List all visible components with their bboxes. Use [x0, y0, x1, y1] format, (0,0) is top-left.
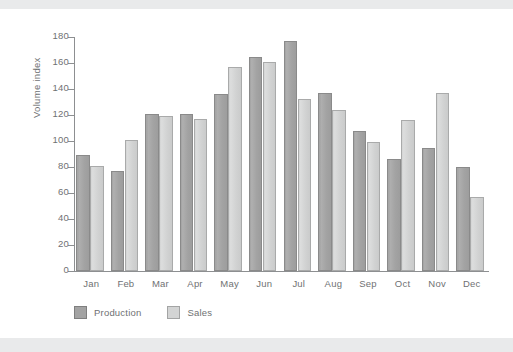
chart-legend: ProductionSales	[74, 306, 238, 319]
x-axis-line	[74, 271, 489, 272]
bar-group	[316, 37, 351, 271]
bar-sales-may	[228, 67, 242, 271]
bar-production-aug	[318, 93, 332, 271]
plot-area	[74, 37, 489, 271]
bar-group	[282, 37, 317, 271]
bar-group	[74, 37, 109, 271]
bar-production-jul	[284, 41, 298, 271]
production-swatch	[74, 306, 87, 319]
x-tick-label: Dec	[454, 278, 489, 289]
x-tick-label: Feb	[109, 278, 144, 289]
x-tick-label: Jun	[247, 278, 282, 289]
x-tick-label: Mar	[143, 278, 178, 289]
bar-sales-dec	[470, 197, 484, 271]
bar-production-dec	[456, 167, 470, 271]
bar-group	[143, 37, 178, 271]
x-tick-label: Nov	[420, 278, 455, 289]
bar-sales-aug	[332, 110, 346, 271]
y-axis-title: Volume index	[31, 57, 42, 118]
x-tick-label: Sep	[351, 278, 386, 289]
legend-item-production[interactable]: Production	[74, 306, 141, 319]
y-tick-label: 120	[53, 108, 69, 119]
bar-group	[212, 37, 247, 271]
bar-production-apr	[180, 114, 194, 271]
x-tick-label: Jan	[74, 278, 109, 289]
bar-sales-jul	[298, 99, 312, 271]
bar-sales-feb	[125, 140, 139, 271]
y-tick-label: 60	[58, 186, 69, 197]
bar-sales-nov	[436, 93, 450, 271]
bar-production-jan	[76, 155, 90, 271]
bar-group	[385, 37, 420, 271]
bottom-border-band	[0, 338, 513, 352]
bar-sales-apr	[194, 119, 208, 271]
x-tick-label: Apr	[178, 278, 213, 289]
bar-sales-oct	[401, 120, 415, 271]
x-tick-label: Jul	[282, 278, 317, 289]
bar-group	[178, 37, 213, 271]
y-tick-label: 20	[58, 238, 69, 249]
bar-group	[420, 37, 455, 271]
y-tick-label: 140	[53, 82, 69, 93]
bar-production-mar	[145, 114, 159, 271]
bar-production-may	[214, 94, 228, 271]
legend-item-sales[interactable]: Sales	[167, 306, 212, 319]
top-border-band	[0, 0, 513, 9]
bar-production-jun	[249, 57, 263, 272]
x-tick-label: May	[212, 278, 247, 289]
bar-sales-jun	[263, 62, 277, 271]
bar-sales-sep	[367, 142, 381, 271]
y-tick-label: 80	[58, 160, 69, 171]
y-tick-label: 0	[64, 264, 69, 275]
bar-production-nov	[422, 148, 436, 272]
sales-swatch	[167, 306, 180, 319]
bar-sales-jan	[90, 166, 104, 271]
bar-production-sep	[353, 131, 367, 271]
bar-group	[351, 37, 386, 271]
y-tick-label: 40	[58, 212, 69, 223]
bar-group	[454, 37, 489, 271]
legend-label: Sales	[187, 307, 212, 318]
bar-production-feb	[111, 171, 125, 271]
bar-group	[109, 37, 144, 271]
y-tick-label: 160	[53, 56, 69, 67]
x-tick-label: Aug	[316, 278, 351, 289]
legend-label: Production	[94, 307, 141, 318]
bar-production-oct	[387, 159, 401, 271]
y-tick-label: 100	[53, 134, 69, 145]
bar-sales-mar	[159, 116, 173, 271]
bar-group	[247, 37, 282, 271]
x-tick-label: Oct	[385, 278, 420, 289]
chart-figure: Volume index 020406080100120140160180 Ja…	[0, 0, 513, 352]
y-tick-label: 180	[53, 30, 69, 41]
